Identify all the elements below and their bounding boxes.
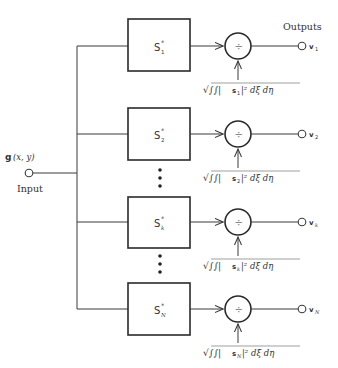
output-name-2: v [309,131,314,139]
normalizer-suffix-2: |² dξ dη [241,173,274,184]
input-caption: Input [17,183,43,194]
divide-icon-k: ÷ [235,217,243,228]
filter-sup-n: * [161,302,165,310]
divide-icon-2: ÷ [235,129,243,140]
filter-sub-1: 1 [161,49,165,55]
input-node: g (x, y) Input [5,152,77,194]
output-sub-k: k [315,222,318,228]
output-terminal-icon-1 [298,42,306,50]
normalizer-suffix-k: |² dξ dη [241,261,274,272]
output-terminal-icon-n [298,305,306,313]
divide-icon-n: ÷ [235,304,243,315]
normalizer-prefix-n: √∫∫| [203,348,221,359]
output-terminal-icon-k [298,218,306,226]
normalizer-s-k: s [232,263,236,271]
filter-name-1: S [154,42,160,53]
output-name-n: v [309,306,314,314]
normalizer-prefix-1: √∫∫| [203,85,221,96]
normalizer-s-2: s [232,175,236,183]
matched-filter-bank-diagram: g (x, y) Input Outputs S * 1 ÷ v 1 √∫∫| … [0,0,338,368]
ellipsis-dots-lower [158,254,162,274]
output-sub-1: 1 [315,46,318,52]
filter-sup-2: * [161,127,165,135]
normalizer-sub-2: 2 [237,178,240,184]
filter-sup-1: * [161,39,165,47]
filter-sub-n: N [160,312,166,318]
channel-2: S * 2 ÷ v 2 √∫∫| s 2 |² dξ dη [77,108,318,184]
channel-n: S * N ÷ v N √∫∫| s N |² dξ dη [77,283,320,359]
output-terminal-icon-2 [298,130,306,138]
channel-k: S * k ÷ v k √∫∫| s k |² dξ dη [77,197,318,272]
filter-sub-2: 2 [161,137,165,143]
input-terminal-icon [25,169,33,177]
channel-1: S * 1 ÷ v 1 √∫∫| s 1 |² dξ dη [77,19,318,96]
filter-name-2: S [154,130,160,141]
divide-icon-1: ÷ [235,41,243,52]
input-signal-label: g [5,152,11,162]
input-signal-args: (x, y) [13,152,35,162]
normalizer-prefix-k: √∫∫| [203,261,221,272]
filter-sub-k: k [161,225,165,231]
filter-sup-k: * [161,215,165,223]
ellipsis-dots-upper [158,168,162,188]
output-sub-2: 2 [315,134,318,140]
output-sub-n: N [314,309,320,315]
outputs-caption: Outputs [283,21,322,32]
normalizer-s-n: s [232,350,236,358]
normalizer-prefix-2: √∫∫| [203,173,221,184]
normalizer-sub-k: k [237,266,240,272]
filter-name-k: S [154,218,160,229]
output-name-k: v [309,219,314,227]
output-name-1: v [309,43,314,51]
normalizer-suffix-1: |² dξ dη [241,85,274,96]
normalizer-sub-1: 1 [237,90,240,96]
filter-name-n: S [154,305,160,316]
normalizer-s-1: s [232,87,236,95]
normalizer-suffix-n: |² dξ dη [242,348,275,359]
